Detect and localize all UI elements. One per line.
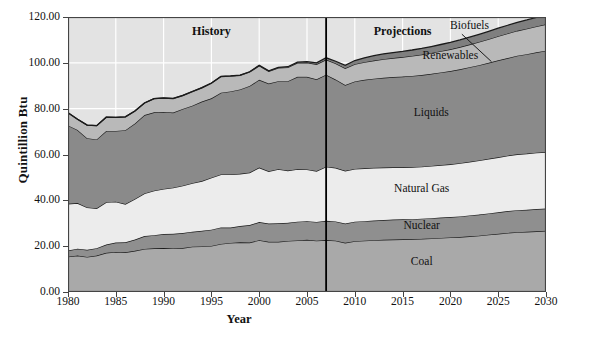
annotation-coal: Coal [411, 255, 433, 267]
x-tick-label: 2000 [236, 295, 282, 307]
x-axis-title-text: Year [227, 312, 252, 326]
annotation-biofuels: Biofuels [450, 19, 489, 31]
x-tick-label: 2005 [284, 295, 330, 307]
x-tick-label: 1985 [93, 295, 139, 307]
y-tick-label: 20.00 [8, 240, 60, 251]
annotation-renewables: Renewables [423, 49, 479, 61]
y-tick-label: 100.00 [8, 57, 60, 68]
y-tick-mark [63, 292, 68, 293]
x-tick-label: 1995 [188, 295, 234, 307]
annotation-liquids: Liquids [414, 106, 449, 118]
x-tick-label: 2020 [427, 295, 473, 307]
x-tick-label: 2025 [475, 295, 521, 307]
y-tick-label: 40.00 [8, 194, 60, 205]
x-axis-title: Year [0, 312, 598, 327]
x-tick-label: 2010 [332, 295, 378, 307]
chart-figure: Quintillion Btu 120.00 100.00 80.00 60.0… [0, 0, 598, 339]
x-tick-label: 1990 [141, 295, 187, 307]
y-tick-label: 80.00 [8, 103, 60, 114]
annotation-projections: Projections [374, 24, 432, 39]
x-tick-label: 2030 [523, 295, 569, 307]
y-tick-label: 60.00 [8, 149, 60, 160]
annotation-nuclear: Nuclear [404, 219, 440, 231]
x-tick-label: 1980 [45, 295, 91, 307]
annotation-history: History [192, 24, 231, 39]
y-tick-label: 120.00 [8, 11, 60, 22]
x-tick-label: 2015 [380, 295, 426, 307]
y-axis-tick-labels: 120.00 100.00 80.00 60.00 40.00 20.00 0.… [8, 0, 60, 339]
annotation-natural-gas: Natural Gas [394, 182, 449, 194]
